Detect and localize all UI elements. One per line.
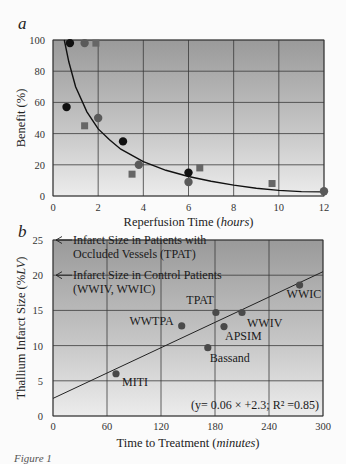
figure-caption-fragment: Figure 1	[14, 452, 52, 464]
point-label-tpat: TPAT	[186, 293, 214, 307]
annotation-line1: Infarct Size in Patients with	[73, 233, 206, 247]
x-axis-label: Time to Treatment (minutes)	[117, 436, 260, 450]
data-point-tpat	[212, 309, 219, 316]
point-label-wwtpa: WWTPA	[129, 314, 174, 328]
annotation-line2: Occluded Vessels (TPAT)	[73, 247, 196, 261]
data-point-miti	[112, 370, 119, 377]
x-tick-label: 300	[315, 421, 331, 432]
y-tick-label: 0	[38, 411, 43, 422]
point-label-wwic: WWIC	[287, 287, 322, 301]
x-tick-label: 240	[261, 421, 277, 432]
y-tick-label: 15	[33, 305, 44, 316]
y-tick-label: 25	[33, 235, 44, 246]
point-label-miti: MITI	[122, 375, 148, 389]
point-label-apsim: APSIM	[225, 329, 262, 343]
annotation-line1: Infarct Size in Control Patients	[73, 268, 222, 282]
annotation-line2: (WWIV, WWIC)	[73, 282, 155, 296]
y-tick-label: 5	[38, 376, 43, 387]
data-point-wwtpa	[178, 322, 185, 329]
regression-equation: (y= 0.06 × +2.3; R² =0.85)	[191, 398, 319, 412]
x-tick-label: 180	[207, 421, 223, 432]
point-label-bassand: Bassand	[210, 351, 250, 365]
y-tick-label: 20	[33, 270, 44, 281]
x-tick-label: 0	[50, 421, 55, 432]
x-tick-label: 60	[102, 421, 113, 432]
point-label-wwiv: WWIV	[247, 316, 283, 330]
y-axis-label: Thallium Infarct Size (%LV)	[14, 257, 28, 400]
y-tick-label: 10	[33, 341, 44, 352]
plot-area	[53, 240, 323, 416]
data-point-wwiv	[238, 309, 245, 316]
x-tick-label: 120	[153, 421, 169, 432]
